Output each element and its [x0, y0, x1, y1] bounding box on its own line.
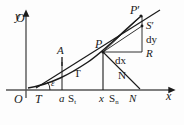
tangent-foot-label: T	[35, 93, 42, 105]
point-s-prime-mark: ′	[152, 19, 154, 31]
point-p-label: P	[95, 38, 102, 50]
subtangent-foot-label: St	[68, 93, 76, 105]
point-a-label: A	[57, 45, 64, 56]
normal-segment-label: N	[118, 70, 126, 81]
tangent-normal-diagram: O y x O T ε a St A T P x Sn N N P′ S′ dy…	[0, 0, 184, 125]
origin-label: O	[14, 93, 23, 105]
secant-chord-pp-prime	[103, 16, 141, 52]
point-p-prime-label: P′	[130, 4, 140, 16]
subnormal-subscript: n	[115, 98, 118, 105]
subtangent-subscript: t	[74, 98, 76, 105]
secant-chord-ps-prime	[103, 26, 142, 52]
abscissa-x-label: x	[99, 93, 104, 104]
angle-epsilon-arc	[48, 82, 51, 90]
abscissa-a-label: a	[59, 93, 65, 104]
differential-dy-label: dy	[146, 34, 157, 45]
angle-epsilon-label: ε	[51, 79, 55, 88]
y-label: y	[15, 10, 20, 22]
tangent-segment-label: T	[74, 68, 81, 79]
x-label: x	[166, 90, 171, 102]
corner-r-label: R	[146, 48, 153, 59]
point-p-prime-mark: ′	[137, 3, 139, 17]
point-s-prime-label: S′	[146, 20, 154, 31]
point-s-prime-dot	[141, 25, 144, 28]
diagram-vector-graphics	[0, 0, 184, 125]
normal-foot-label: N	[129, 93, 136, 104]
subnormal-foot-label: Sn	[109, 93, 119, 105]
differential-dx-label: dx	[115, 55, 126, 66]
